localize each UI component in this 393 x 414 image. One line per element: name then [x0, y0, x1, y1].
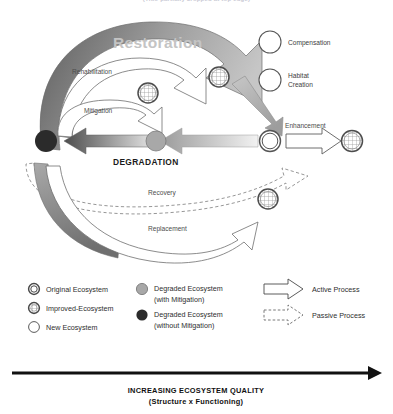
diagram-canvas: Restoration Rehabilitation Mitigation DE… — [0, 0, 393, 414]
legend-label-original-ecosystem: Original Ecosystem — [46, 285, 108, 294]
replacement-arrow — [46, 166, 258, 263]
node-improved-ecosystem-rehabilitation — [138, 83, 158, 103]
legend-label-passive-process: Passive Process — [312, 311, 366, 320]
rehabilitation-label: Rehabilitation — [72, 68, 112, 75]
degradation-label: DEGRADATION — [113, 157, 179, 167]
node-habitat-creation — [259, 69, 281, 91]
habitat-creation-label-line2: Creation — [288, 81, 313, 88]
node-improved-ecosystem-replacement — [258, 189, 278, 209]
restoration-label: Restoration — [113, 34, 202, 51]
legend-label-active-process: Active Process — [312, 285, 360, 294]
axis-caption-line1: INCREASING ECOSYSTEM QUALITY — [128, 386, 264, 395]
degradation-arrow-left — [64, 128, 152, 154]
node-improved-ecosystem-restoration — [209, 67, 229, 87]
recovery-label: Recovery — [148, 189, 177, 197]
enhancement-arrow — [286, 128, 341, 154]
legend-marker-original-ecosystem — [29, 284, 40, 295]
legend-marker-active-process — [264, 279, 303, 299]
legend-label-degraded-without-mitigation-line1: Degraded Ecosystem — [154, 310, 223, 319]
habitat-creation-label-line1: Habitat — [288, 72, 309, 79]
node-degraded-without-mitigation — [35, 130, 57, 152]
node-degraded-with-mitigation — [146, 131, 166, 151]
legend-label-new-ecosystem: New Ecosystem — [46, 323, 98, 332]
legend-marker-passive-process — [264, 305, 303, 325]
legend-label-improved-ecosystem: Improved-Ecosystem — [46, 304, 114, 313]
legend-label-degraded-without-mitigation-line2: (without Mitigation) — [154, 321, 214, 330]
legend-marker-degraded-with-mitigation — [136, 283, 147, 294]
node-original-ecosystem — [260, 131, 281, 152]
quality-axis-arrow — [12, 366, 382, 380]
legend-label-degraded-with-mitigation-line2: (with Mitigation) — [154, 295, 204, 304]
node-compensation — [259, 31, 281, 53]
axis-caption-line2: (Structure x Functioning) — [149, 397, 244, 406]
node-improved-ecosystem-enhancement — [342, 131, 363, 152]
legend-marker-improved-ecosystem — [29, 303, 40, 314]
legend-label-degraded-with-mitigation-line1: Degraded Ecosystem — [154, 284, 223, 293]
figure-root: (Title partially cropped at top edge) — [0, 0, 393, 414]
replacement-label: Replacement — [148, 225, 187, 233]
legend-marker-new-ecosystem — [29, 322, 40, 333]
mitigation-label: Mitigation — [84, 107, 113, 115]
legend-marker-degraded-without-mitigation — [136, 309, 147, 320]
compensation-label: Compensation — [288, 39, 331, 47]
enhancement-label: Enhancement — [285, 122, 326, 129]
degradation-arrow-right — [160, 128, 258, 154]
